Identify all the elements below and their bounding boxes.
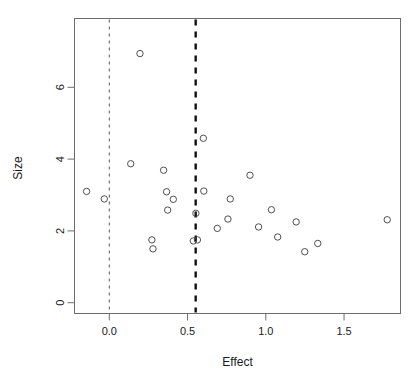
- y-axis-title: Size: [11, 156, 25, 180]
- x-tick-label: 0.0: [102, 325, 117, 337]
- x-axis-title: Effect: [222, 355, 253, 369]
- figure-background: [0, 0, 420, 384]
- y-tick-label: 0: [55, 300, 67, 306]
- y-tick-label: 2: [55, 228, 67, 234]
- y-tick-label: 6: [55, 84, 67, 90]
- x-tick-label: 1.5: [336, 325, 351, 337]
- scatter-plot-canvas: 0.00.51.01.5 0246 Effect Size: [0, 0, 420, 384]
- funnel-plot-figure: 0.00.51.01.5 0246 Effect Size: [0, 0, 420, 384]
- x-tick-label: 0.5: [180, 325, 195, 337]
- y-tick-label: 4: [55, 156, 67, 162]
- x-tick-label: 1.0: [258, 325, 273, 337]
